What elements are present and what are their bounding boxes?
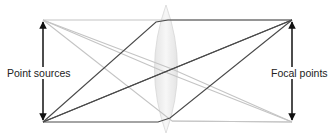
ray-bottom-horizontal-light [172,121,292,122]
focal-points-label: Focal points [270,67,328,79]
point-sources-label: Point sources [6,67,72,79]
